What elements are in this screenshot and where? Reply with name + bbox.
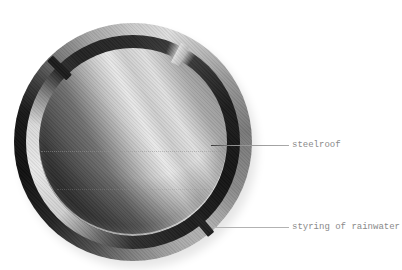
halftone-artifact-line — [41, 151, 225, 152]
halftone-artifact-line — [57, 189, 213, 190]
steel-roof-illustration — [14, 23, 252, 261]
rainwater-label: styring of rainwater — [292, 223, 400, 232]
steelroof-label: steelroof — [292, 141, 341, 150]
figure: steelroof styring of rainwater — [0, 0, 402, 270]
rainwater-leader-line — [214, 227, 289, 228]
steelroof-leader-line — [211, 145, 289, 146]
